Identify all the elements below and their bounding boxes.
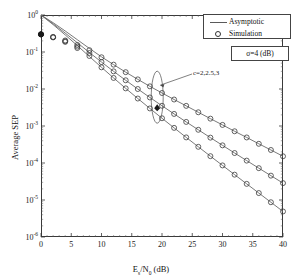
- y-tick-label: 10-5: [25, 194, 38, 205]
- sigma-annotation-label: σ=4 (dB): [246, 49, 274, 58]
- x-tick-label: 35: [241, 240, 265, 249]
- x-tick-label: 10: [90, 240, 114, 249]
- legend-row-simulation: Simulation: [204, 27, 290, 39]
- legend: Asymptotic Simulation: [203, 14, 291, 39]
- legend-label-asymptotic: Asymptotic: [229, 17, 264, 26]
- y-axis-title: Average SEP: [10, 115, 20, 160]
- y-tick-label: 10-3: [25, 120, 38, 131]
- x-axis-title: Es/N0 (dB): [0, 264, 302, 276]
- highlight-ellipse: [151, 71, 163, 123]
- y-tick-label: 10-4: [25, 157, 38, 168]
- chart-figure: 10010-110-210-310-410-510-6 051015202530…: [0, 0, 302, 280]
- x-tick-label: 5: [59, 240, 83, 249]
- callout-arrow: [160, 74, 192, 85]
- legend-label-simulation: Simulation: [229, 29, 262, 38]
- x-tick-label: 15: [120, 240, 144, 249]
- x-tick-label: 40: [271, 240, 295, 249]
- x-tick-label: 25: [180, 240, 204, 249]
- x-tick-label: 30: [211, 240, 235, 249]
- chart-canvas: [0, 0, 302, 280]
- sigma-annotation-box: σ=4 (dB): [231, 46, 289, 61]
- y-tick-label: 100: [27, 9, 38, 20]
- c-parameter-callout: c=2,2.5,3: [193, 69, 219, 77]
- callout-annotation: [151, 71, 192, 123]
- x-axis-title-slash-n: /N: [140, 264, 149, 274]
- y-tick-label: 10-2: [25, 83, 38, 94]
- legend-circle-swatch: [207, 24, 229, 42]
- x-tick-label: 0: [29, 240, 53, 249]
- data-point: [39, 32, 44, 37]
- x-axis-title-unit: (dB): [151, 264, 169, 274]
- x-tick-label: 20: [150, 240, 174, 249]
- y-tick-label: 10-1: [25, 46, 38, 57]
